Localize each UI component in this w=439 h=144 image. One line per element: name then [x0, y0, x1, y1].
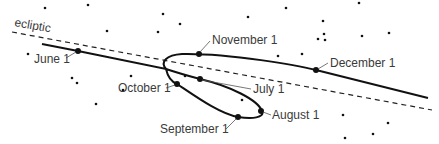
star-dot — [179, 23, 182, 26]
star-dot — [361, 35, 364, 38]
star-dot — [106, 30, 109, 33]
star-dot — [247, 16, 250, 19]
star-dot — [322, 20, 325, 23]
star-dot — [372, 133, 375, 136]
background-stars — [27, 2, 391, 140]
star-dot — [323, 33, 326, 36]
date-marker-dot — [313, 67, 319, 73]
star-dot — [388, 32, 391, 35]
date-marker-dot — [75, 48, 81, 54]
star-dot — [157, 31, 160, 34]
star-dot — [71, 77, 74, 80]
star-dot — [277, 55, 280, 58]
leader-line — [263, 112, 271, 115]
diagram-canvas: ecliptic June 1July 1August 1September 1… — [0, 0, 439, 144]
star-dot — [130, 75, 133, 78]
star-dot — [76, 82, 79, 85]
star-dot — [387, 122, 390, 125]
star-dot — [342, 114, 345, 117]
retrograde-motion-diagram: ecliptic June 1July 1August 1September 1… — [0, 0, 439, 144]
date-label: August 1 — [272, 108, 320, 122]
star-dot — [358, 2, 361, 5]
ecliptic-label: ecliptic — [13, 15, 52, 35]
leader-line — [318, 63, 328, 69]
date-markers: June 1July 1August 1September 1October 1… — [34, 33, 396, 136]
date-label: October 1 — [118, 81, 171, 95]
star-dot — [27, 53, 30, 56]
date-label: July 1 — [253, 82, 285, 96]
star-dot — [44, 7, 47, 10]
star-dot — [162, 13, 165, 16]
date-label: November 1 — [212, 33, 278, 47]
date-label: December 1 — [330, 56, 396, 70]
star-dot — [344, 137, 347, 140]
retrograde-loop — [166, 69, 262, 118]
star-dot — [317, 38, 320, 41]
star-dot — [95, 103, 98, 106]
star-dot — [324, 39, 327, 42]
star-dot — [241, 99, 244, 102]
leader-line — [200, 41, 210, 52]
star-dot — [285, 7, 288, 10]
date-marker-dot — [196, 51, 202, 57]
date-label: September 1 — [160, 122, 229, 136]
date-label: June 1 — [34, 52, 70, 66]
date-marker-dot — [258, 108, 264, 114]
date-marker-dot — [197, 76, 203, 82]
star-dot — [301, 53, 304, 56]
star-dot — [87, 4, 90, 7]
date-marker-dot — [174, 81, 180, 87]
